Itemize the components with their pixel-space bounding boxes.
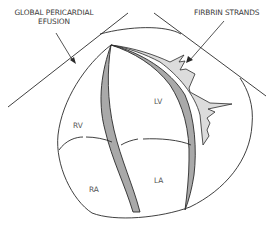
chamber-label-lv: LV (154, 97, 162, 106)
effusion-callout-label: GLOBAL PERICARDIAL EFUSION (8, 9, 100, 26)
callout-arrow-effusion-line (56, 33, 73, 61)
sector-left-edge (8, 13, 128, 107)
chamber-label-ra: RA (89, 185, 99, 194)
fibrin-strands (111, 45, 232, 145)
mitral-annulus-line-2 (143, 139, 191, 145)
pericardial-effusion-diagram (0, 0, 272, 228)
heart-outer-contour (58, 45, 253, 218)
tricuspid-annulus-line (59, 137, 83, 150)
chamber-label-rv: RV (73, 121, 83, 130)
pericardium-outline (100, 28, 181, 34)
effusion-callout-line2: EFUSION (8, 18, 100, 27)
chamber-label-la: LA (154, 176, 163, 185)
interventricular-septum (101, 45, 140, 212)
arrowhead-icon (186, 56, 193, 63)
mitral-annulus-line (121, 139, 138, 145)
callout-arrow-fibrin-line (190, 21, 224, 60)
fibrin-callout-label: FIRBRIN STRANDS (194, 9, 259, 18)
